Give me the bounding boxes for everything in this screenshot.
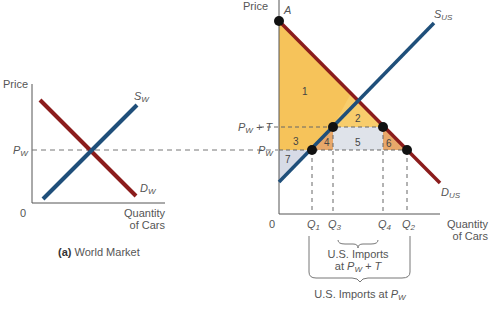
- q1-world-dot: [307, 145, 317, 155]
- world-x-axis-label-line2: of Cars: [130, 219, 166, 231]
- point-a-dot: [274, 16, 284, 26]
- us-origin-label: 0: [269, 218, 275, 230]
- q3-tariff-dot: [328, 122, 338, 132]
- us-supply-label: SUS: [434, 8, 453, 22]
- world-origin-label: 0: [20, 207, 26, 219]
- area-3-label: 3: [293, 136, 299, 147]
- world-pw-label: PW: [13, 144, 29, 158]
- pw-plus-t-label: PW + T: [238, 121, 273, 135]
- imports-tariff-bracket: [338, 240, 378, 248]
- imports-tariff-label-line1: U.S. Imports: [327, 248, 389, 260]
- q1-tick-label: Q1: [307, 218, 320, 232]
- us-x-axis-label-line1: Quantity: [447, 218, 488, 230]
- q4-tick-label: Q4: [378, 218, 392, 232]
- area-1-label: 1: [302, 86, 308, 97]
- pw-label: PW: [258, 144, 274, 158]
- world-demand-label: DW: [140, 182, 157, 196]
- area-7-label: 7: [285, 154, 291, 165]
- us-market-panel: Price 1 2 3 4 5 6 7 A SUS DUS PW: [238, 0, 488, 302]
- area-5-label: 5: [355, 137, 361, 148]
- tariff-chart: Price PW SW DW 0 Quantity of Cars (a) Wo…: [0, 0, 494, 318]
- us-x-axis-label-line2: of Cars: [453, 230, 489, 242]
- q2-tick-label: Q2: [402, 218, 416, 232]
- q3-tick-label: Q3: [328, 218, 342, 232]
- world-market-title: (a) World Market: [58, 246, 140, 258]
- world-x-axis-label-line1: Quantity: [124, 207, 165, 219]
- us-demand-label: DUS: [441, 186, 461, 200]
- area-4-label: 4: [324, 137, 330, 148]
- area-2-label: 2: [355, 113, 361, 124]
- q2-world-dot: [402, 145, 412, 155]
- area-6-label: 6: [386, 138, 392, 149]
- world-supply-label: SW: [134, 90, 150, 104]
- imports-tariff-label-line2: at PW + T: [335, 260, 383, 274]
- world-demand-curve: [40, 100, 136, 196]
- world-market-panel: Price PW SW DW 0 Quantity of Cars (a) Wo…: [3, 78, 278, 258]
- imports-world-label: U.S. Imports at PW: [314, 288, 407, 302]
- us-y-axis-label: Price: [243, 0, 268, 12]
- point-a-label: A: [283, 4, 291, 16]
- world-y-axis-label: Price: [3, 78, 28, 90]
- q4-tariff-dot: [378, 122, 388, 132]
